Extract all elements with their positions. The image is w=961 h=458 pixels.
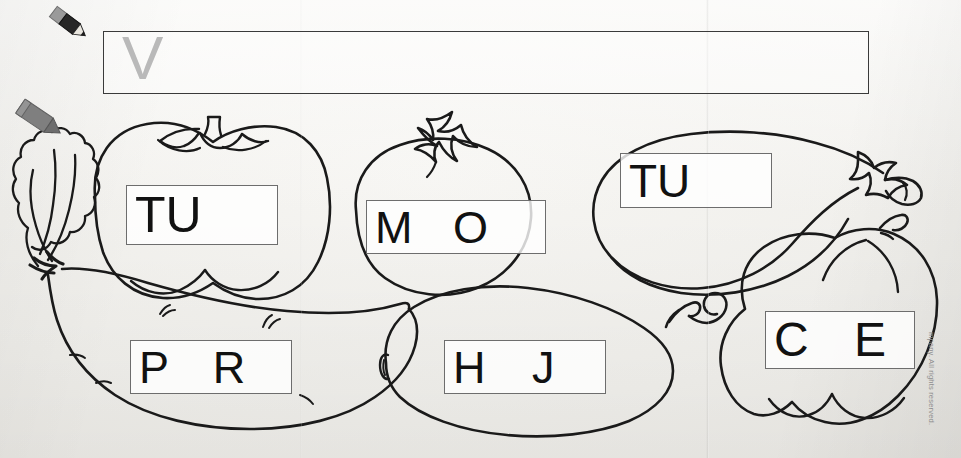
letter-box-bell-pepper[interactable]: C E (765, 311, 915, 369)
letter-box-bell-pepper-text: C E (766, 316, 902, 364)
traced-letter: V (122, 26, 164, 89)
letter-box-zucchini-text: H J (445, 345, 572, 390)
letter-box-zucchini[interactable]: H J (444, 340, 606, 394)
worksheet-page: V TU M O TU P R H J C E mpany. All right… (0, 0, 961, 458)
letter-box-eggplant-text: TU (621, 158, 690, 204)
letter-box-carrot-text: P R (131, 345, 261, 390)
letter-box-tomato[interactable]: M O (366, 200, 546, 254)
letter-box-eggplant[interactable]: TU (620, 153, 772, 208)
pencil-icon (46, 2, 92, 46)
letter-box-tomato-text: M O (367, 205, 502, 250)
letter-box-pumpkin[interactable]: TU (126, 185, 278, 245)
copyright-notice: mpany. All rights reserved. (927, 332, 936, 452)
answer-input-box[interactable]: V (103, 31, 869, 94)
crayon-icon (12, 98, 68, 142)
letter-box-carrot[interactable]: P R (130, 340, 292, 394)
letter-box-pumpkin-text: TU (127, 190, 202, 240)
